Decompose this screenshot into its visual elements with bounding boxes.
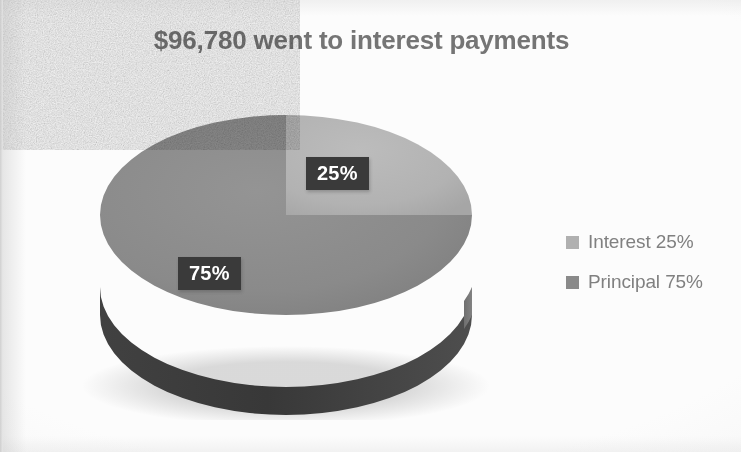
pie-chart-figure: $96,780 went to interest payments: [0, 0, 741, 452]
data-label-interest: 25%: [306, 157, 369, 190]
legend-label-interest: Interest 25%: [588, 231, 693, 253]
pie-plot-area: [78, 80, 498, 420]
chart-legend: Interest 25% Principal 75%: [566, 222, 703, 302]
legend-swatch-principal: [566, 276, 579, 289]
data-label-principal: 75%: [178, 257, 241, 290]
legend-item-principal[interactable]: Principal 75%: [566, 262, 703, 302]
pie-graphic: [78, 80, 498, 420]
legend-swatch-interest: [566, 236, 579, 249]
chart-title: $96,780 went to interest payments: [0, 25, 741, 56]
legend-item-interest[interactable]: Interest 25%: [566, 222, 703, 262]
page-left-edge-shadow: [0, 0, 3, 452]
legend-label-principal: Principal 75%: [588, 271, 703, 293]
